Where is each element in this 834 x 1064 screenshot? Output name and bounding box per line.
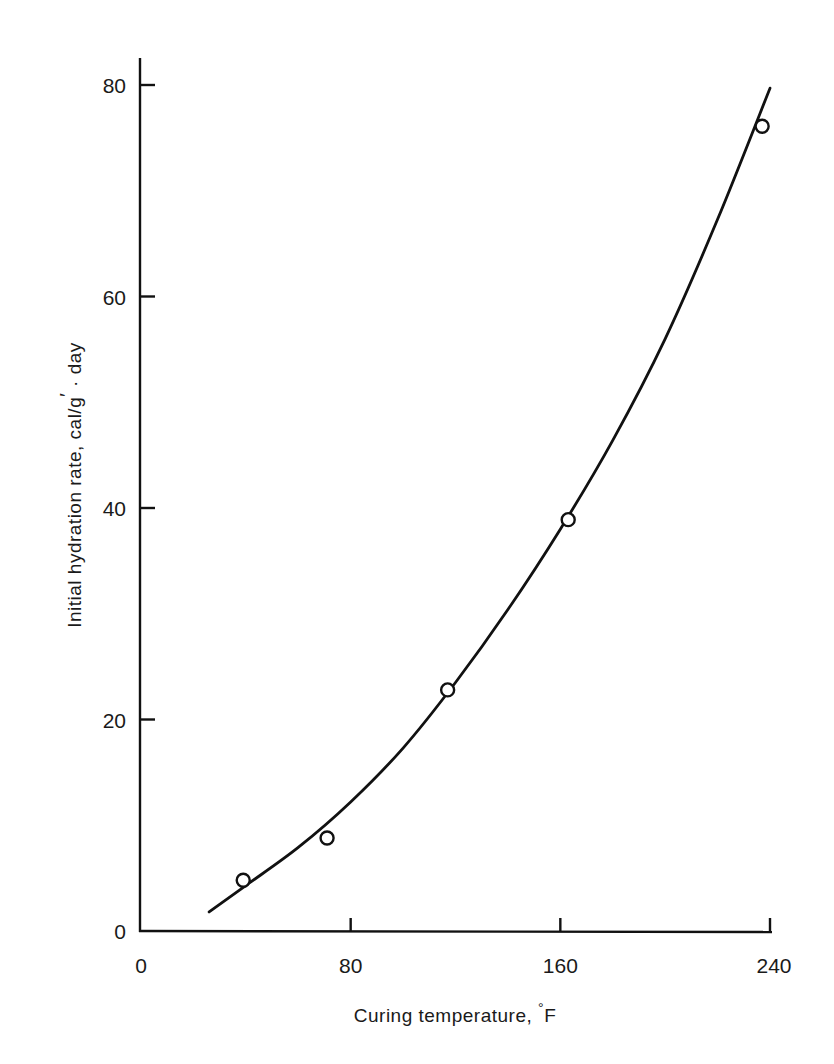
data-point-marker xyxy=(441,683,454,696)
data-point-marker xyxy=(237,874,250,887)
y-ticks: 020406080 xyxy=(103,74,155,943)
x-tick-label: 80 xyxy=(339,954,362,977)
y-axis-title-text: Initial hydration rate, cal/g xyxy=(64,397,85,628)
y-axis-title-rest: · day xyxy=(64,342,85,393)
y-tick-label: 40 xyxy=(103,497,126,520)
y-tick-label: 0 xyxy=(114,920,126,943)
data-point-marker xyxy=(321,831,334,844)
x-axis-line xyxy=(139,931,772,932)
y-tick-label: 80 xyxy=(103,74,126,97)
x-ticks: 080160240 xyxy=(135,918,791,977)
x-tick-label: 240 xyxy=(756,954,791,977)
y-tick-label: 20 xyxy=(103,709,126,732)
data-point-marker xyxy=(562,513,575,526)
y-axis-title: Initial hydration rate, cal/g′ · day xyxy=(56,342,85,628)
axes xyxy=(139,58,772,932)
x-tick-label: 160 xyxy=(543,954,578,977)
chart: 020406080 080160240 Curing temperature, … xyxy=(0,0,834,1064)
x-tick-label: 0 xyxy=(135,954,147,977)
x-axis-title-text: Curing temperature, xyxy=(354,1005,538,1026)
data-points xyxy=(237,120,769,887)
fitted-curve xyxy=(209,88,770,912)
y-tick-label: 60 xyxy=(103,286,126,309)
x-axis-title: Curing temperature, °F xyxy=(354,1000,556,1026)
x-axis-unit: F xyxy=(544,1005,556,1026)
data-point-marker xyxy=(756,120,769,133)
